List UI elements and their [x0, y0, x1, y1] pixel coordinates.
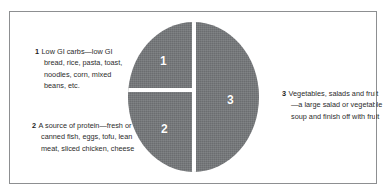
caption-block-1: 1Low GI carbs—low GI bread, rice, pasta,… — [35, 46, 133, 92]
caption-marker-1: 1 — [35, 47, 39, 56]
plate-divider-horizontal — [128, 88, 194, 92]
caption-block-2: 2A source of protein—fresh or canned fis… — [32, 120, 136, 154]
caption-marker-3: 3 — [282, 89, 286, 98]
caption-text-2: A source of protein—fresh or canned fish… — [39, 121, 135, 153]
plate-segment-label-1: 1 — [160, 55, 167, 67]
plate-segment-label-2: 2 — [161, 123, 168, 135]
plate-circle: 1 2 3 — [128, 22, 259, 172]
plate-segment-label-3: 3 — [227, 94, 234, 106]
plate-diagram: 1 2 3 — [128, 22, 259, 172]
caption-text-1: Low GI carbs—low GI bread, rice, pasta, … — [42, 47, 123, 90]
caption-marker-2: 2 — [32, 121, 36, 130]
figure-root: 1Low GI carbs—low GI bread, rice, pasta,… — [0, 0, 386, 196]
plate-divider-vertical — [192, 22, 196, 172]
caption-text-3: Vegetables, salads and fruit—a large sal… — [289, 89, 383, 121]
caption-block-3: 3Vegetables, salads and fruit—a large sa… — [282, 88, 384, 122]
